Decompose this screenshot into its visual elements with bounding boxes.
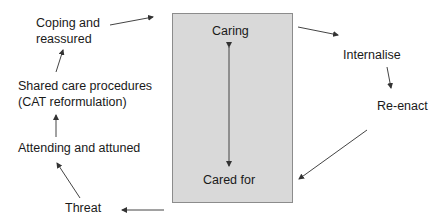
arrow-to-cared-for bbox=[299, 130, 367, 179]
arrows-layer bbox=[0, 0, 443, 224]
arrow-to-coping bbox=[56, 50, 63, 72]
arrow-to-caring bbox=[110, 17, 153, 25]
arrow-to-attending bbox=[57, 163, 80, 198]
arrow-to-internalise bbox=[298, 27, 338, 35]
arrow-to-re-enact bbox=[387, 67, 391, 88]
